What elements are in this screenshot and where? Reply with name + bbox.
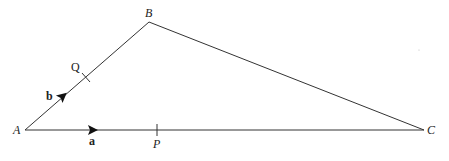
label-a-vertex: A: [12, 123, 21, 137]
label-vector-b: b: [46, 89, 53, 103]
triangle-diagram: A B C P Q a b: [0, 0, 449, 161]
label-b-vertex: B: [145, 6, 153, 20]
speck: [418, 49, 419, 50]
side-bc: [149, 22, 424, 130]
label-p: P: [152, 137, 161, 151]
diagram-svg: A B C P Q a b: [0, 0, 449, 161]
label-q: Q: [71, 60, 80, 74]
label-c-vertex: C: [427, 123, 436, 137]
side-ab: [25, 22, 149, 130]
label-vector-a: a: [89, 134, 95, 148]
